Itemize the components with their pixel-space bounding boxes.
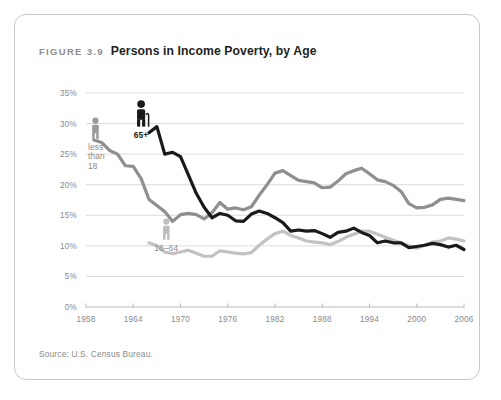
poverty-by-age-line-chart: 0%5%10%15%20%25%30%35% 19581964197019761… (15, 15, 481, 381)
series-line-65- (149, 127, 464, 250)
figure-card: FIGURE 3.9Persons in Income Poverty, by … (14, 14, 480, 380)
annotation-less-than-18: lessthan18 (88, 118, 105, 172)
y-axis-tick-labels: 0%5%10%15%20%25%30%35% (60, 89, 77, 312)
y-axis-tick-label: 15% (60, 211, 77, 220)
x-axis-tick-labels: 195819641970197619821988199420002006 (76, 315, 473, 324)
annotation-label: 18 (88, 161, 98, 171)
y-axis-tick-label: 10% (60, 242, 77, 251)
icon-torso (92, 125, 99, 133)
series-line-less-than-18 (94, 140, 464, 221)
icon-leg-right (142, 119, 145, 126)
person-elderly-cane-icon (137, 100, 149, 126)
x-axis-tick-label: 1964 (124, 315, 143, 324)
x-axis-tick-label: 2000 (407, 315, 426, 324)
icon-leg-left (163, 234, 166, 240)
x-axis-tick-label: 1958 (76, 315, 95, 324)
icon-head (163, 218, 169, 224)
y-axis-tick-label: 30% (60, 120, 77, 129)
y-axis-tick-label: 20% (60, 181, 77, 190)
annotation-18-64: 18–64 (154, 218, 178, 252)
icon-leg-left (137, 119, 140, 126)
data-series-group (94, 127, 464, 257)
x-axis-tick-label: 2006 (454, 315, 473, 324)
x-axis (86, 304, 464, 308)
icon-head (137, 100, 145, 108)
annotation-label: less (88, 142, 104, 152)
icon-torso (163, 226, 170, 234)
person-child-icon (92, 118, 99, 139)
icon-torso (137, 109, 145, 119)
annotation-65-plus: 65+ (134, 100, 149, 139)
y-axis-tick-label: 25% (60, 150, 77, 159)
series-annotations-group: lessthan1865+18–64 (88, 100, 179, 253)
x-axis-tick-label: 1976 (218, 315, 237, 324)
icon-head (92, 118, 98, 124)
icon-cane (146, 114, 149, 127)
x-axis-tick-label: 1994 (360, 315, 379, 324)
icon-leg-right (167, 234, 170, 240)
person-adult-icon (163, 218, 170, 239)
x-axis-tick-label: 1970 (171, 315, 190, 324)
source-note: Source: U.S. Census Bureau. (39, 349, 153, 359)
x-axis-tick-label: 1988 (313, 315, 332, 324)
annotation-label: than (88, 151, 105, 161)
y-axis-tick-label: 35% (60, 89, 77, 98)
icon-leg-left (92, 133, 95, 139)
annotation-label: 65+ (134, 130, 149, 140)
y-axis-tick-label: 5% (65, 272, 77, 281)
icon-leg-right (96, 133, 99, 139)
series-line-18-64 (149, 231, 464, 256)
x-axis-tick-label: 1982 (265, 315, 284, 324)
annotation-label: 18–64 (154, 243, 178, 253)
y-axis-tick-label: 0% (65, 303, 77, 312)
